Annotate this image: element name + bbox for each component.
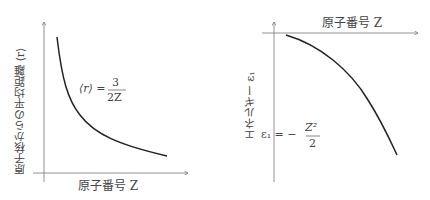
- left-formula-lhs: ⟨r⟩ =: [79, 82, 106, 95]
- left-x-axis-label: 原子番号 Z: [78, 176, 138, 193]
- diagram-canvas: [0, 0, 430, 200]
- right-y-axis-label: エネルギー ε₁: [243, 60, 259, 140]
- right-formula-lhs: ε₁ = −: [261, 128, 297, 141]
- right-formula-denominator: 2: [309, 137, 316, 150]
- left-y-axis-label: 原子核からの平均距離 ⟨r⟩: [13, 35, 29, 175]
- right-formula-numerator: Z²: [305, 121, 317, 134]
- right-x-axis-label: 原子番号 Z: [322, 13, 382, 30]
- left-formula-denominator: 2Z: [107, 91, 122, 104]
- right-curve: [286, 35, 397, 155]
- left-formula-numerator: 3: [112, 76, 119, 89]
